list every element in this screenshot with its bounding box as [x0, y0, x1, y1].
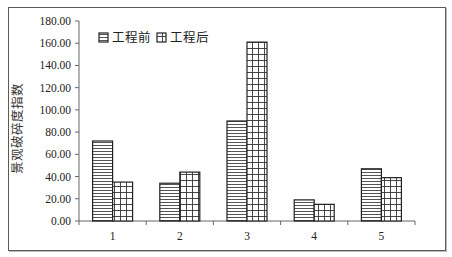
y-tick-label: 80.00 [45, 126, 71, 138]
y-tick-label: 40.00 [45, 171, 71, 183]
x-tick-label: 2 [177, 230, 183, 242]
bar-after-3 [247, 42, 267, 221]
bars-group [93, 42, 402, 221]
legend-label: 工程后 [170, 30, 209, 45]
x-tick-label: 1 [110, 230, 116, 242]
legend-swatch-icon [157, 33, 166, 42]
legend-swatch-icon [99, 33, 108, 42]
y-tick-label: 180.00 [39, 15, 71, 27]
y-tick-label: 20.00 [45, 193, 71, 205]
bar-before-5 [361, 169, 381, 221]
y-tick-label: 160.00 [39, 37, 71, 49]
legend-label: 工程前 [112, 30, 151, 45]
bar-after-5 [381, 178, 401, 221]
x-axis: 12345 [79, 221, 415, 242]
bar-after-1 [113, 182, 133, 221]
y-tick-label: 0.00 [51, 215, 71, 227]
legend: 工程前工程后 [99, 30, 209, 45]
y-tick-label: 100.00 [39, 104, 71, 116]
bar-before-4 [294, 200, 314, 221]
bar-before-3 [227, 121, 247, 221]
bar-chart: 0.0020.0040.0060.0080.00100.00120.00140.… [0, 0, 452, 257]
y-tick-label: 120.00 [39, 82, 71, 94]
bar-after-2 [180, 172, 200, 221]
bar-after-4 [314, 204, 334, 221]
y-tick-label: 140.00 [39, 59, 71, 71]
y-tick-label: 60.00 [45, 148, 71, 160]
bar-before-1 [93, 141, 113, 221]
x-tick-label: 3 [244, 230, 250, 242]
bar-before-2 [160, 183, 180, 221]
y-axis: 0.0020.0040.0060.0080.00100.00120.00140.… [39, 15, 79, 227]
y-axis-label: 景观破碎度指数 [10, 83, 25, 174]
x-tick-label: 5 [379, 230, 385, 242]
x-tick-label: 4 [311, 230, 317, 242]
